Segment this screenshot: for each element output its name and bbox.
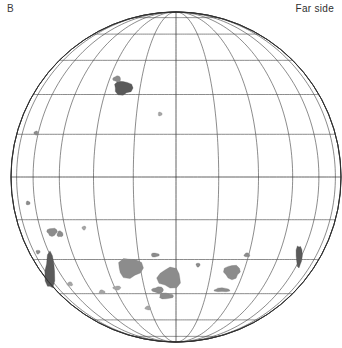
mare-patch-left-limb-speck-b (36, 250, 40, 254)
mare-patch-left-mid-speck (82, 226, 86, 230)
mare-patch-center-speck-left (113, 286, 121, 290)
mare-patch-south-center-speck (145, 306, 151, 310)
mare-patch-center-basin-large (157, 267, 181, 288)
mare-patch-north-patch-small (115, 81, 133, 95)
mare-patch-right-limb-streak (296, 246, 302, 268)
mare-patch-left-limb-elongated (45, 251, 55, 288)
globe-map (0, 0, 342, 348)
surface-features (26, 76, 302, 310)
mare-patch-south-left-speck (67, 282, 73, 286)
mare-patch-right-basin (223, 265, 240, 280)
figure-root: B Far side (0, 0, 342, 348)
mare-patch-mare-moscoviense (119, 259, 144, 279)
mare-patch-left-upper-patch (57, 231, 63, 237)
mare-patch-center-speck-upper (151, 253, 159, 257)
graticule (11, 12, 341, 342)
mare-patch-left-patch-b (47, 228, 58, 236)
mare-patch-north-patch-speck (113, 76, 121, 82)
mare-patch-center-crescent-a (151, 287, 163, 293)
mare-patch-mid-north-speck (158, 112, 162, 116)
mare-patch-right-speck-a (196, 263, 200, 267)
mare-patch-right-hook (214, 288, 230, 292)
mare-patch-lower-left-speck (99, 290, 105, 294)
mare-patch-left-limb-speck-a (26, 201, 30, 205)
